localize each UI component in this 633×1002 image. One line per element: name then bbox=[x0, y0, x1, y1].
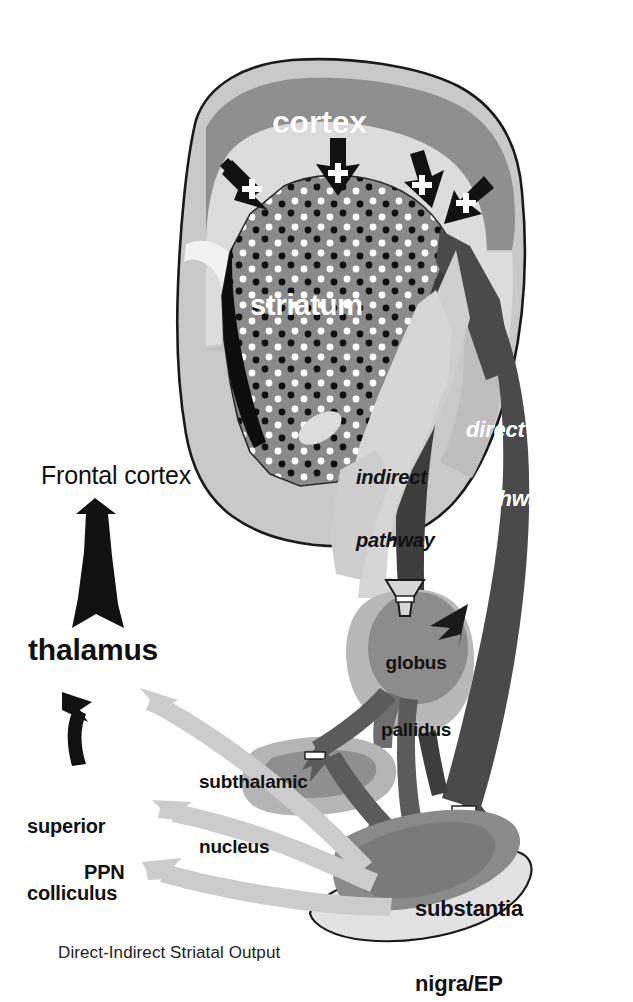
label-ppn: PPN bbox=[84, 862, 125, 883]
label-thalamus: thalamus bbox=[28, 634, 158, 666]
indirect-to-gp-minus-sign bbox=[396, 596, 414, 602]
label-frontal-cortex: Frontal cortex bbox=[41, 462, 191, 488]
figure-caption: Direct-Indirect Striatal Output bbox=[58, 944, 280, 962]
label-indirect-pathway-line1: indirect bbox=[356, 467, 435, 488]
label-direct-pathway: direct pathway bbox=[466, 372, 553, 557]
label-globus-pallidus-line2: pallidus bbox=[381, 719, 451, 741]
label-indirect-pathway: indirect pathway bbox=[356, 425, 435, 593]
figure-root: cortex striatum direct pathway indirect … bbox=[0, 0, 633, 1002]
label-indirect-pathway-line2: pathway bbox=[356, 530, 435, 551]
label-direct-pathway-line2: pathway bbox=[466, 487, 553, 510]
superior-colliculus-to-thalamus-arrow bbox=[62, 692, 92, 766]
label-direct-pathway-line1: direct bbox=[466, 418, 553, 441]
label-subthalamic-nucleus-line1: subthalamic bbox=[199, 771, 308, 793]
label-cortex: cortex bbox=[272, 106, 367, 140]
label-globus-pallidus-line1: globus bbox=[381, 652, 451, 674]
label-superior-colliculus: superior colliculus bbox=[27, 770, 117, 949]
label-superior-colliculus-line1: superior bbox=[27, 815, 117, 837]
label-substantia-nigra-line2: nigra/EP bbox=[415, 971, 523, 996]
label-striatum: striatum bbox=[250, 290, 363, 320]
thalamus-to-cortex-arrow-shape bbox=[72, 498, 124, 628]
label-superior-colliculus-line2: colliculus bbox=[27, 882, 117, 904]
label-globus-pallidus: globus pallidus bbox=[381, 607, 451, 786]
label-substantia-nigra-line1: substantia bbox=[415, 896, 523, 921]
label-subthalamic-nucleus-line2: nucleus bbox=[199, 836, 308, 858]
gp-to-stn-minus-sign bbox=[305, 752, 325, 759]
label-substantia-nigra: substantia nigra/EP bbox=[415, 845, 523, 1002]
thalamus-to-frontal-cortex-arrow bbox=[72, 498, 124, 628]
label-subthalamic-nucleus: subthalamic nucleus bbox=[199, 727, 308, 902]
